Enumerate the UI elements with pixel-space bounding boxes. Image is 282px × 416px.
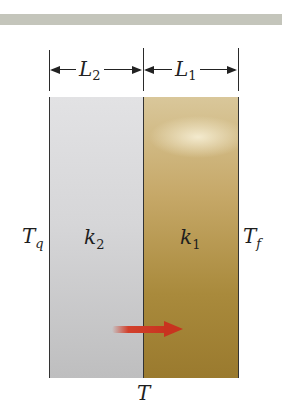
length-label-l2: L2 bbox=[76, 58, 104, 87]
slab-right-edge bbox=[238, 97, 240, 378]
arrowhead-right-icon bbox=[227, 66, 237, 74]
length-label-l1: L1 bbox=[172, 58, 200, 87]
arrowhead-left-icon bbox=[144, 66, 154, 74]
temperature-label-right-face: Tf bbox=[243, 225, 261, 255]
conductivity-label-k1: k1 bbox=[180, 226, 200, 256]
dimension-tick-right bbox=[238, 48, 240, 91]
conductivity-label-k2: k2 bbox=[84, 226, 104, 256]
composite-slab-diagram: L2 L1 k2 k1 Tq Tf T bbox=[0, 0, 282, 416]
heat-flow-arrow-icon bbox=[164, 321, 183, 337]
arrowhead-right-icon bbox=[132, 66, 142, 74]
header-band bbox=[0, 14, 282, 25]
temperature-label-left-face: Tq bbox=[22, 225, 44, 255]
heat-flow-arrow-shaft bbox=[112, 326, 166, 333]
slab-left-edge bbox=[49, 97, 51, 378]
arrowhead-left-icon bbox=[50, 66, 60, 74]
slab-interface-edge bbox=[143, 97, 145, 378]
temperature-label-interface: T bbox=[137, 382, 150, 404]
